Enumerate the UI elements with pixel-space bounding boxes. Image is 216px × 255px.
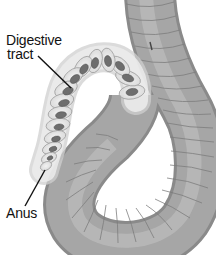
- digestive-tract-label-line-1: Digestive: [6, 33, 62, 47]
- digestive-tract-label-line-2: tract: [7, 47, 33, 61]
- earthworm-diagram: Digestive tract Anus: [0, 0, 216, 255]
- anus-label: Anus: [6, 206, 37, 220]
- worm-body: [66, 0, 214, 247]
